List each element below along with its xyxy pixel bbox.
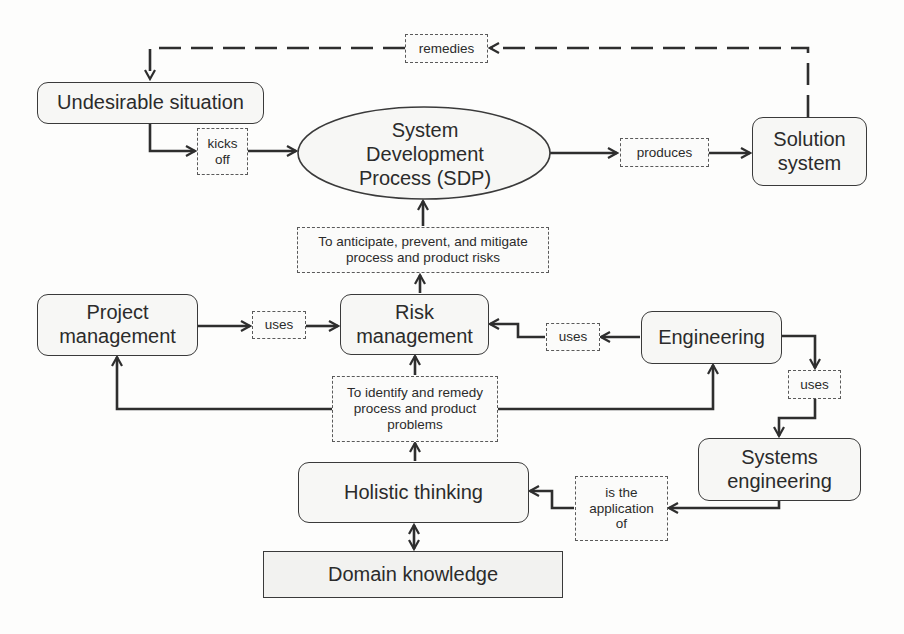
application-line-3: of bbox=[616, 516, 627, 532]
uses-se-text: uses bbox=[800, 377, 829, 393]
solution-system-line-1: Solution bbox=[773, 128, 845, 152]
node-engineering: Engineering bbox=[641, 311, 782, 364]
identify-line-3: problems bbox=[387, 417, 443, 433]
edge-remedies-dashed-left bbox=[150, 48, 405, 79]
kicks-off-line-1: kicks bbox=[208, 136, 238, 152]
edge-label-uses-eng: uses bbox=[546, 323, 600, 351]
edge-label-uses-pm: uses bbox=[252, 311, 306, 339]
sdp-line-1: System bbox=[310, 118, 540, 142]
domain-knowledge-label: Domain knowledge bbox=[328, 563, 498, 587]
project-management-line-2: management bbox=[59, 325, 176, 349]
edge-application-to-holistic bbox=[530, 491, 574, 508]
node-project-management: Project management bbox=[37, 294, 198, 356]
edge-label-application: is the application of bbox=[575, 476, 668, 541]
edge-eng-to-uses-se bbox=[782, 336, 815, 368]
edge-uses-se-to-se bbox=[779, 399, 815, 436]
produces-text: produces bbox=[637, 145, 693, 161]
sdp-line-3: Process (SDP) bbox=[310, 166, 540, 190]
edge-label-produces: produces bbox=[620, 138, 709, 167]
edge-identify-to-pm bbox=[117, 357, 332, 409]
node-domain-knowledge: Domain knowledge bbox=[263, 551, 563, 598]
identify-line-1: To identify and remedy bbox=[347, 385, 483, 401]
project-management-line-1: Project bbox=[86, 301, 148, 325]
identify-line-2: process and product bbox=[354, 401, 476, 417]
application-line-2: application bbox=[589, 501, 654, 517]
node-solution-system: Solution system bbox=[752, 117, 867, 186]
edge-label-identify: To identify and remedy process and produ… bbox=[332, 376, 498, 442]
edge-kicks-off-in bbox=[150, 124, 195, 151]
node-risk-management: Risk management bbox=[340, 294, 489, 355]
edge-label-anticipate: To anticipate, prevent, and mitigate pro… bbox=[297, 227, 549, 273]
edge-uses-to-rm-2 bbox=[490, 324, 545, 337]
uses-pm-text: uses bbox=[265, 317, 294, 333]
solution-system-line-2: system bbox=[778, 152, 841, 176]
risk-management-line-1: Risk bbox=[395, 301, 434, 325]
edge-label-remedies: remedies bbox=[405, 34, 488, 63]
edge-label-kicks-off: kicks off bbox=[197, 128, 248, 175]
edge-identify-to-eng bbox=[498, 365, 713, 409]
remedies-text: remedies bbox=[419, 41, 475, 57]
anticipate-line-1: To anticipate, prevent, and mitigate bbox=[318, 234, 527, 250]
undesirable-situation-label: Undesirable situation bbox=[57, 91, 244, 115]
sdp-line-2: Development bbox=[310, 142, 540, 166]
application-line-1: is the bbox=[605, 485, 637, 501]
node-systems-engineering: Systems engineering bbox=[698, 438, 861, 501]
risk-management-line-2: management bbox=[356, 325, 473, 349]
anticipate-line-2: process and product risks bbox=[346, 250, 500, 266]
systems-engineering-line-2: engineering bbox=[727, 470, 832, 494]
node-holistic-thinking: Holistic thinking bbox=[298, 462, 529, 523]
edge-label-uses-se: uses bbox=[788, 370, 841, 399]
systems-engineering-line-1: Systems bbox=[741, 446, 818, 470]
uses-eng-text: uses bbox=[559, 329, 588, 345]
edge-se-to-application bbox=[669, 501, 779, 508]
kicks-off-line-2: off bbox=[215, 152, 230, 168]
edge-remedies-dashed bbox=[490, 48, 808, 117]
node-sdp: System Development Process (SDP) bbox=[310, 118, 540, 190]
holistic-thinking-label: Holistic thinking bbox=[344, 481, 483, 505]
engineering-label: Engineering bbox=[658, 326, 765, 350]
node-undesirable-situation: Undesirable situation bbox=[37, 82, 264, 124]
